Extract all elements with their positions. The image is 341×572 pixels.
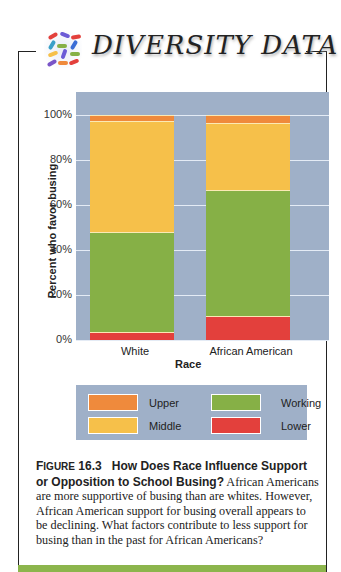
y-tick-label: 80%: [20, 153, 72, 165]
legend-swatch: [88, 394, 138, 411]
y-tick-label: 0%: [20, 333, 72, 345]
bar-segment-lower: [90, 332, 174, 340]
chart-legend: UpperWorkingMiddleLower: [76, 385, 307, 440]
bar-segment-lower: [206, 316, 290, 340]
y-tick-label: 20%: [20, 288, 72, 300]
y-tick-label: 100%: [20, 108, 72, 120]
legend-item-upper: Upper: [88, 394, 179, 411]
colorful-pills-mosaic-icon: [44, 30, 82, 68]
bar-segment-working: [90, 232, 174, 332]
stacked-bar-african-american: [206, 115, 290, 340]
frame-left-border: [18, 51, 19, 572]
legend-swatch: [211, 394, 261, 411]
x-tick-label: African American: [191, 345, 311, 357]
legend-item-middle: Middle: [88, 417, 181, 434]
bar-segment-working: [206, 190, 290, 316]
bar-segment-upper: [206, 115, 290, 123]
y-tick-label: 40%: [20, 243, 72, 255]
bar-segment-middle: [90, 121, 174, 232]
stacked-bar-white: [90, 115, 174, 340]
legend-label: Working: [281, 397, 321, 409]
figure-caption: FIGURE 16.3 How Does Race Influence Supp…: [36, 459, 320, 548]
section-title: DIVERSITY DATA: [92, 30, 338, 60]
x-tick-label: White: [75, 345, 195, 357]
y-tick-label: 60%: [20, 198, 72, 210]
legend-label: Upper: [149, 397, 179, 409]
chart-plot-area: [76, 92, 329, 340]
legend-swatch: [88, 417, 138, 434]
legend-swatch: [211, 417, 261, 434]
bar-segment-middle: [206, 123, 290, 191]
frame-top-left-border: [18, 51, 36, 52]
legend-item-lower: Lower: [211, 417, 311, 434]
legend-item-working: Working: [211, 394, 321, 411]
accent-bar: [18, 565, 326, 572]
gridline: [76, 340, 329, 341]
x-axis-title: Race: [175, 358, 201, 370]
legend-label: Lower: [281, 420, 311, 432]
legend-label: Middle: [149, 420, 181, 432]
